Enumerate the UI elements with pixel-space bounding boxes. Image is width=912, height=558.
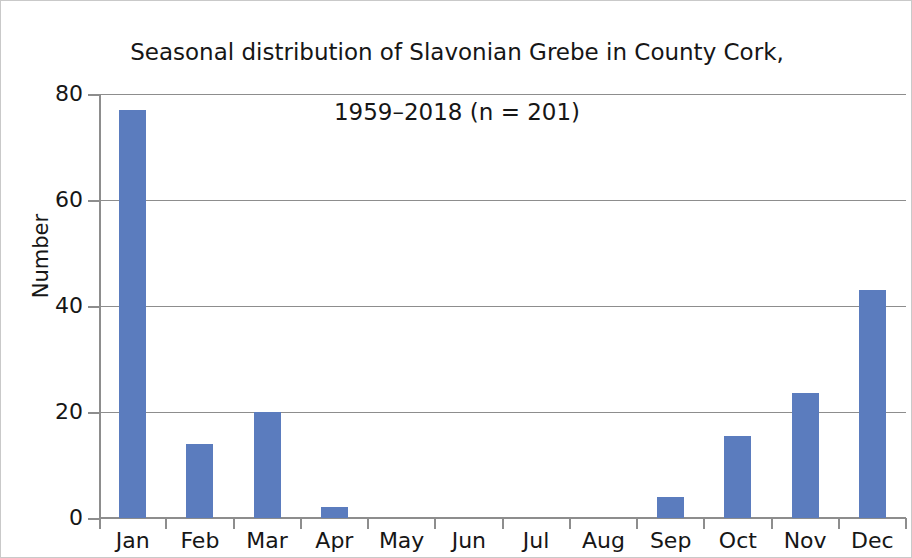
x-tick-mark-9 (703, 518, 705, 529)
bar-feb (186, 444, 213, 518)
y-tick-label-0: 0 (69, 505, 83, 530)
x-tick-label-jul: Jul (523, 528, 550, 553)
y-tick-mark-40 (88, 306, 99, 308)
bar-dec (859, 290, 886, 518)
x-tick-label-jan: Jan (116, 528, 150, 553)
y-tick-mark-0 (88, 518, 99, 520)
y-tick-label-60: 60 (55, 187, 83, 212)
x-tick-label-dec: Dec (851, 528, 894, 553)
gridline-y-60 (99, 200, 906, 201)
x-tick-mark-5 (434, 518, 436, 529)
x-tick-mark-8 (636, 518, 638, 529)
x-tick-mark-7 (569, 518, 571, 529)
x-tick-mark-6 (502, 518, 504, 529)
x-tick-label-oct: Oct (719, 528, 757, 553)
gridline-y-40 (99, 306, 906, 307)
x-tick-mark-1 (165, 518, 167, 529)
x-tick-label-nov: Nov (784, 528, 827, 553)
x-tick-label-aug: Aug (582, 528, 625, 553)
y-tick-label-40: 40 (55, 293, 83, 318)
x-tick-label-may: May (379, 528, 424, 553)
x-tick-label-mar: Mar (246, 528, 288, 553)
y-tick-label-80: 80 (55, 81, 83, 106)
chart-figure: Seasonal distribution of Slavonian Grebe… (0, 0, 912, 558)
chart-title-line-1: Seasonal distribution of Slavonian Grebe… (130, 39, 784, 65)
gridline-y-20 (99, 412, 906, 413)
x-tick-mark-4 (367, 518, 369, 529)
y-axis-title: Number (29, 196, 53, 316)
x-tick-mark-0 (99, 518, 101, 529)
bar-mar (254, 412, 281, 518)
bar-sep (657, 497, 684, 518)
x-tick-label-feb: Feb (180, 528, 219, 553)
plot-area: 020406080 (99, 94, 906, 518)
x-tick-label-apr: Apr (315, 528, 353, 553)
y-tick-mark-60 (88, 200, 99, 202)
bar-nov (792, 393, 819, 518)
x-tick-mark-10 (771, 518, 773, 529)
x-tick-mark-11 (838, 518, 840, 529)
x-tick-label-sep: Sep (650, 528, 691, 553)
y-tick-label-20: 20 (55, 399, 83, 424)
x-tick-label-jun: Jun (452, 528, 486, 553)
x-tick-mark-3 (300, 518, 302, 529)
x-tick-mark-2 (233, 518, 235, 529)
bar-oct (724, 436, 751, 518)
gridline-y-80 (99, 94, 906, 95)
bar-jan (119, 110, 146, 518)
y-tick-mark-80 (88, 94, 99, 96)
bar-apr (321, 507, 348, 518)
y-tick-mark-20 (88, 412, 99, 414)
x-tick-mark-12 (905, 518, 907, 529)
